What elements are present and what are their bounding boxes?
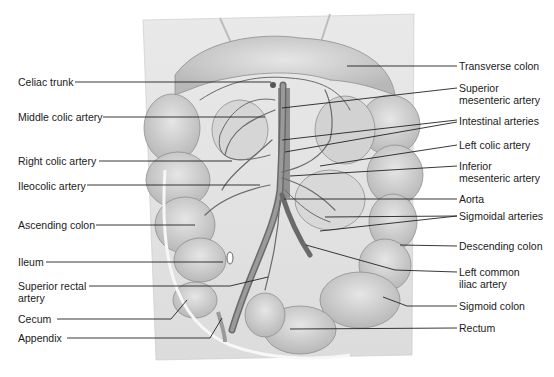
label-sigmoid-colon: Sigmoid colon bbox=[459, 300, 525, 312]
label-intestinal-arteries: Intestinal arteries bbox=[459, 115, 539, 127]
label-line-1: Superior rectal bbox=[18, 280, 86, 292]
label-ascending-colon: Ascending colon bbox=[18, 219, 95, 231]
label-sigmoidal-arteries: Sigmoidal arteries bbox=[459, 210, 543, 222]
label-middle-colic-artery: Middle colic artery bbox=[18, 111, 103, 123]
label-cecum: Cecum bbox=[18, 313, 51, 325]
label-aorta: Aorta bbox=[459, 193, 484, 205]
label-line-2: artery bbox=[18, 292, 86, 304]
label-right-colic-artery: Right colic artery bbox=[18, 155, 96, 167]
label-line-1: Inferior bbox=[459, 160, 540, 172]
label-line-2: mesenteric artery bbox=[459, 94, 540, 106]
label-transverse-colon: Transverse colon bbox=[459, 60, 539, 72]
label-ileum: Ileum bbox=[18, 256, 44, 268]
label-appendix: Appendix bbox=[18, 332, 62, 344]
label-rectum: Rectum bbox=[459, 322, 495, 334]
label-superior-rectal-artery: Superior rectal artery bbox=[18, 280, 86, 304]
label-line-2: mesenteric artery bbox=[459, 172, 540, 184]
label-ileocolic-artery: Ileocolic artery bbox=[18, 180, 86, 192]
label-celiac-trunk: Celiac trunk bbox=[18, 76, 73, 88]
label-inferior-mesenteric-artery: Inferior mesenteric artery bbox=[459, 160, 540, 184]
label-line-1: Superior bbox=[459, 82, 540, 94]
label-left-colic-artery: Left colic artery bbox=[459, 139, 530, 151]
label-line-1: Left common bbox=[459, 266, 520, 278]
label-descending-colon: Descending colon bbox=[459, 240, 542, 252]
label-line-2: iliac artery bbox=[459, 278, 520, 290]
label-superior-mesenteric-artery: Superior mesenteric artery bbox=[459, 82, 540, 106]
label-left-common-iliac-artery: Left common iliac artery bbox=[459, 266, 520, 290]
